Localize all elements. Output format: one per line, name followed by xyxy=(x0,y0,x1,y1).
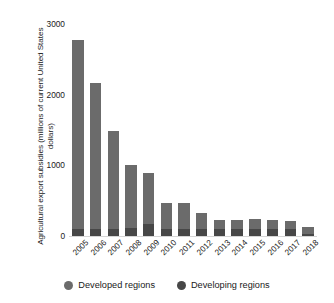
bar-segment-developed-regions xyxy=(249,219,260,228)
bar-segment-developing-regions xyxy=(108,229,119,236)
bar-segment-developing-regions xyxy=(178,229,189,236)
bar-segment-developed-regions xyxy=(161,203,172,229)
stacked-bar xyxy=(178,203,189,236)
bar-column xyxy=(228,24,246,236)
bar-segment-developed-regions xyxy=(125,165,136,229)
chart-legend: Developed regionsDeveloping regions xyxy=(0,280,334,290)
legend-label: Developing regions xyxy=(191,280,270,290)
legend-item[interactable]: Developing regions xyxy=(177,280,270,290)
stacked-bar xyxy=(231,220,242,236)
bar-segment-developed-regions xyxy=(196,213,207,229)
y-axis-title: Agricultural export subsidies (millions … xyxy=(36,24,56,248)
bar-column xyxy=(193,24,211,236)
bar-column xyxy=(264,24,282,236)
bar-column xyxy=(140,24,158,236)
bar-segment-developing-regions xyxy=(125,228,136,236)
stacked-bar xyxy=(108,131,119,236)
stacked-bar xyxy=(72,40,83,236)
bar-segment-developing-regions xyxy=(231,229,242,236)
stacked-bar xyxy=(214,220,225,236)
bar-segment-developing-regions xyxy=(214,229,225,236)
bar-column xyxy=(299,24,317,236)
circle-marker-icon xyxy=(177,281,186,290)
y-axis-tick-label: 3000 xyxy=(47,19,65,29)
bar-column xyxy=(158,24,176,236)
legend-label: Developed regions xyxy=(78,280,155,290)
bar-segment-developing-regions xyxy=(72,229,83,236)
x-axis-ticks: 2005200620072008200920102011201220132014… xyxy=(69,238,317,274)
bar-column xyxy=(104,24,122,236)
stacked-bar xyxy=(302,227,313,236)
stacked-bar xyxy=(161,203,172,236)
chart-figure: Agricultural export subsidies (millions … xyxy=(0,0,334,303)
bar-column xyxy=(87,24,105,236)
bar-segment-developed-regions xyxy=(90,83,101,228)
bar-segment-developing-regions xyxy=(90,229,101,236)
bar-segment-developing-regions xyxy=(267,229,278,236)
bar-segment-developing-regions xyxy=(249,229,260,236)
bar-segment-developed-regions xyxy=(72,40,83,228)
stacked-bar xyxy=(125,165,136,236)
stacked-bar xyxy=(90,83,101,236)
bar-segment-developing-regions xyxy=(196,229,207,236)
y-axis-tick-label: 0 xyxy=(60,231,65,241)
bar-column xyxy=(246,24,264,236)
bar-column xyxy=(122,24,140,236)
bar-series-group xyxy=(69,24,317,236)
bar-segment-developed-regions xyxy=(231,220,242,228)
bar-column xyxy=(175,24,193,236)
bar-segment-developed-regions xyxy=(143,173,154,224)
plot-area: 0100020003000 xyxy=(69,24,317,236)
bar-segment-developed-regions xyxy=(108,131,119,229)
stacked-bar xyxy=(285,221,296,236)
bar-segment-developed-regions xyxy=(178,203,189,229)
stacked-bar xyxy=(267,220,278,236)
bar-column xyxy=(211,24,229,236)
bar-segment-developing-regions xyxy=(161,229,172,236)
bar-segment-developing-regions xyxy=(285,229,296,236)
bar-segment-developed-regions xyxy=(214,220,225,229)
stacked-bar xyxy=(143,173,154,236)
bar-segment-developed-regions xyxy=(302,227,313,234)
bar-segment-developed-regions xyxy=(267,220,278,228)
bar-segment-developed-regions xyxy=(285,221,296,229)
bar-segment-developing-regions xyxy=(143,224,154,236)
legend-item[interactable]: Developed regions xyxy=(64,280,155,290)
bar-column xyxy=(281,24,299,236)
bar-column xyxy=(69,24,87,236)
stacked-bar xyxy=(249,219,260,236)
circle-marker-icon xyxy=(64,281,73,290)
y-axis-tick-label: 1000 xyxy=(47,160,65,170)
stacked-bar xyxy=(196,213,207,236)
y-axis-tick-label: 2000 xyxy=(47,90,65,100)
x-axis-line xyxy=(69,236,317,237)
